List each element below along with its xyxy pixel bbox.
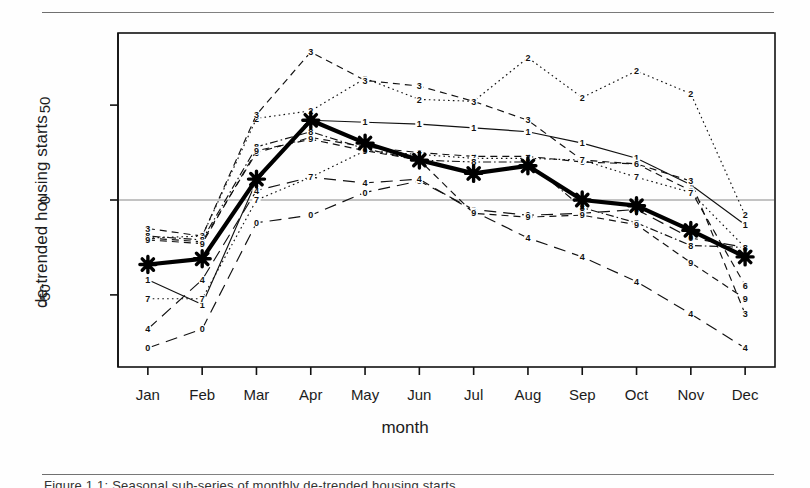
point-label-1: 1 [471,123,476,133]
point-label-7: 7 [254,195,259,205]
point-label-9: 9 [580,210,585,220]
y-axis-tick-label: 50 [36,85,53,125]
x-axis-title: month [0,418,810,438]
mean-star-marker [629,198,645,214]
mean-star-marker [357,135,373,151]
point-label-4: 4 [634,277,639,287]
point-label-7: 7 [634,172,639,182]
plot-svg: 0000000000001111111111112222222222223333… [0,0,810,488]
point-label-1: 1 [743,220,748,230]
figure-page: 0000000000001111111111112222222222223333… [0,0,810,488]
point-label-9: 9 [145,235,150,245]
mean-star-marker [249,171,265,187]
mean-star-marker [411,152,427,168]
point-label-2: 2 [743,210,748,220]
mean-star-marker [466,165,482,181]
point-label-8: 8 [688,241,693,251]
series-0: 000000000000 [144,176,750,353]
x-axis-tick-label: Nov [663,386,719,403]
point-label-4: 4 [200,275,205,285]
series-line [148,132,745,248]
point-label-3: 3 [525,115,530,125]
point-label-3: 3 [743,309,748,319]
point-label-9: 9 [525,212,530,222]
point-label-9: 9 [743,294,748,304]
x-axis-tick-label: Dec [717,386,773,403]
point-label-2: 2 [525,53,530,63]
point-label-1: 1 [145,275,150,285]
point-label-9: 9 [634,220,639,230]
point-label-3: 3 [308,47,313,57]
x-axis-tick-label: May [337,386,393,403]
series-3: 333333333333 [144,47,750,319]
series-line [148,58,745,238]
point-label-4: 4 [688,309,693,319]
chart-area: 0000000000001111111111112222222222223333… [0,0,810,488]
point-label-2: 2 [580,93,585,103]
series-8: 888888888888 [144,127,750,253]
point-label-0: 0 [254,218,259,228]
mean-star-marker [303,112,319,128]
x-axis-tick-label: Jan [120,386,176,403]
point-label-2: 2 [688,89,693,99]
mean-star-marker [194,251,210,267]
mean-star-marker [520,158,536,174]
point-label-4: 4 [145,324,150,334]
x-axis-tick-label: Feb [174,386,230,403]
x-axis-tick-label: Sep [554,386,610,403]
point-label-1: 1 [363,117,368,127]
point-label-7: 7 [145,294,150,304]
x-axis-tick-label: Jun [391,386,447,403]
point-label-7: 7 [688,188,693,198]
point-label-2: 2 [634,66,639,76]
point-label-9: 9 [688,258,693,268]
point-label-0: 0 [200,324,205,334]
point-label-4: 4 [363,178,368,188]
series-9: 999999999999 [144,134,750,303]
mean-line [148,120,745,264]
mean-star-marker [737,249,753,265]
point-label-6: 6 [743,281,748,291]
point-label-7: 7 [580,155,585,165]
rule-bottom [42,474,774,475]
point-label-9: 9 [308,134,313,144]
point-label-0: 0 [308,210,313,220]
point-label-4: 4 [525,233,530,243]
x-axis-tick-label: Apr [283,386,339,403]
point-label-3: 3 [417,81,422,91]
point-label-2: 2 [417,95,422,105]
mean-star-marker [574,192,590,208]
point-label-9: 9 [471,208,476,218]
point-label-4: 4 [417,174,422,184]
point-label-3: 3 [254,110,259,120]
point-label-7: 7 [308,172,313,182]
point-label-4: 4 [580,252,585,262]
y-axis-tick-label: -50 [36,275,53,315]
point-label-3: 3 [363,76,368,86]
point-label-0: 0 [145,343,150,353]
point-label-0: 0 [363,188,368,198]
mean-star-marker [140,257,156,273]
series-line [148,177,745,348]
mean-star-marker [683,222,699,238]
y-axis-tick-label: 0 [36,180,53,220]
point-label-3: 3 [471,97,476,107]
x-axis-tick-label: Mar [228,386,284,403]
point-label-1: 1 [580,138,585,148]
point-label-9: 9 [200,239,205,249]
figure-caption: Figure 1.1: Seasonal sub-series of month… [44,479,456,488]
point-label-1: 1 [417,119,422,129]
x-axis-tick-label: Aug [500,386,556,403]
x-axis-tick-label: Jul [446,386,502,403]
point-label-7: 7 [200,294,205,304]
series-line [148,137,745,285]
point-label-4: 4 [743,343,748,353]
y-axis-title: de-trended housing starts [14,0,34,90]
point-label-1: 1 [525,127,530,137]
point-label-6: 6 [634,159,639,169]
point-label-9: 9 [254,146,259,156]
x-axis-tick-label: Oct [609,386,665,403]
